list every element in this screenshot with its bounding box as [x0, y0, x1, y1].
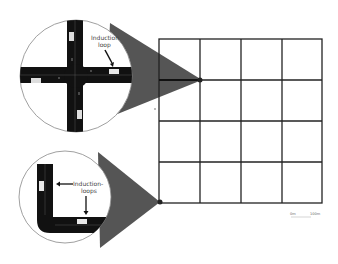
road-grid [159, 39, 322, 203]
inset-corner: Induction- loops [19, 151, 111, 243]
vehicle [77, 110, 82, 119]
highlighted-node-corner [158, 200, 163, 205]
label-induction-loops-line1: Induction- [73, 180, 103, 187]
induction-loop [109, 69, 119, 74]
svg-text:100m: 100m [310, 212, 321, 216]
vehicle [31, 78, 41, 83]
induction-loop [39, 181, 44, 191]
road-network-figure: Induction loop Induction- loops 0m 100m [0, 0, 338, 264]
label-induction-loop-line1: Induction [91, 34, 119, 41]
induction-loop [77, 219, 87, 224]
scale-bar: 0m 100m [290, 212, 321, 217]
label-induction-loops-line2: loops [81, 187, 97, 195]
highlighted-node-intersection [198, 78, 203, 83]
svg-text:0m: 0m [290, 212, 296, 216]
label-induction-loop-line2: loop [98, 41, 111, 49]
vehicle [69, 32, 74, 41]
inset-intersection: Induction loop [20, 20, 132, 132]
